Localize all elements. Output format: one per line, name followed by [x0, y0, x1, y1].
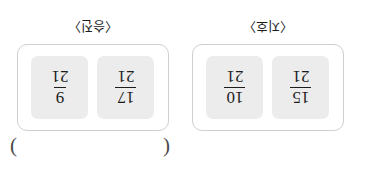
open-paren: ( [163, 139, 170, 160]
answer-blank[interactable]: ( ) [10, 135, 170, 163]
group-jiho: 15 21 10 21 〈지호〉 [192, 18, 344, 131]
fraction-card: 17 21 9 21 [17, 44, 169, 131]
fraction-denominator: 21 [225, 69, 246, 88]
group-seungjin: 17 21 9 21 〈승진〉 [17, 18, 169, 131]
group-label: 〈승진〉 [68, 18, 119, 37]
fraction: 15 21 [291, 69, 312, 107]
fraction-card: 15 21 10 21 [192, 44, 344, 131]
answer-blank-space[interactable] [17, 149, 163, 150]
fraction: 17 21 [116, 69, 137, 107]
fraction-numerator: 15 [291, 88, 312, 107]
fraction-numerator: 10 [225, 88, 246, 107]
fraction-tile[interactable]: 15 21 [273, 56, 330, 119]
group-row: 15 21 10 21 〈지호〉 17 21 [0, 3, 366, 131]
group-label: 〈지호〉 [243, 18, 294, 37]
fraction-numerator: 9 [54, 88, 67, 107]
fraction-denominator: 21 [116, 69, 137, 88]
close-paren: ) [10, 139, 17, 160]
fraction: 10 21 [225, 69, 246, 107]
fraction-denominator: 21 [50, 69, 71, 88]
fraction-tile[interactable]: 10 21 [207, 56, 264, 119]
worksheet-sheet: ( ) 15 21 10 21 〈지호〉 [0, 0, 366, 171]
fraction-tile[interactable]: 9 21 [32, 56, 89, 119]
fraction-tile[interactable]: 17 21 [98, 56, 155, 119]
fraction-numerator: 17 [116, 88, 137, 107]
fraction-denominator: 21 [291, 69, 312, 88]
fraction: 9 21 [50, 69, 71, 107]
